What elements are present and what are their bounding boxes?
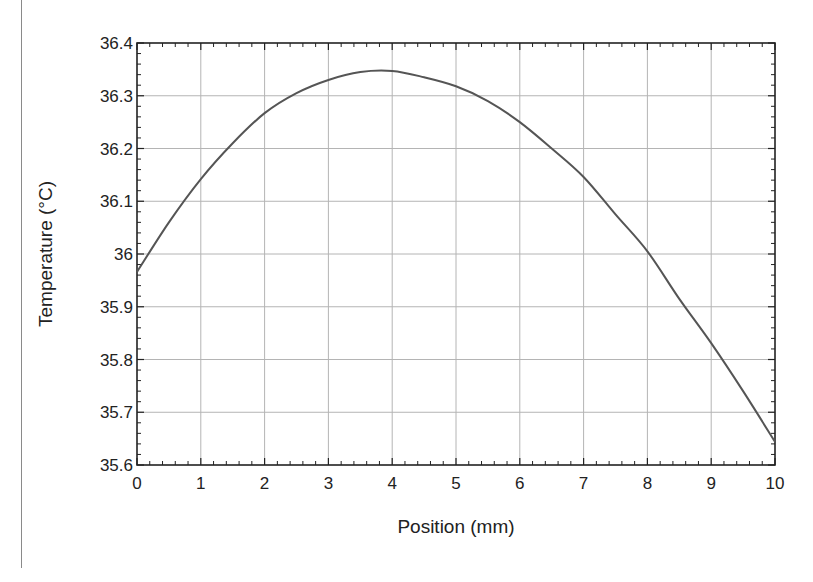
x-tick-label: 9 xyxy=(706,474,715,493)
y-tick-label: 35.6 xyxy=(100,456,133,475)
y-tick-label: 36 xyxy=(114,245,133,264)
y-tick-labels: 35.635.735.835.93636.136.236.336.4 xyxy=(100,34,133,475)
x-tick-label: 3 xyxy=(324,474,333,493)
y-axis-title: Temperature (°C) xyxy=(35,181,56,327)
x-tick-label: 7 xyxy=(579,474,588,493)
x-tick-label: 4 xyxy=(387,474,396,493)
x-tick-label: 6 xyxy=(515,474,524,493)
x-axis-title: Position (mm) xyxy=(397,516,514,537)
y-tick-label: 35.9 xyxy=(100,298,133,317)
x-tick-label: 5 xyxy=(451,474,460,493)
x-tick-label: 2 xyxy=(260,474,269,493)
y-tick-label: 36.4 xyxy=(100,34,133,53)
x-tick-label: 0 xyxy=(132,474,141,493)
y-tick-label: 35.7 xyxy=(100,403,133,422)
y-tick-label: 36.3 xyxy=(100,87,133,106)
x-tick-label: 8 xyxy=(643,474,652,493)
temperature-position-chart: 012345678910 35.635.735.835.93636.136.23… xyxy=(0,0,813,582)
x-tick-labels: 012345678910 xyxy=(132,474,784,493)
x-tick-label: 1 xyxy=(196,474,205,493)
x-tick-label: 10 xyxy=(766,474,785,493)
y-tick-label: 36.1 xyxy=(100,192,133,211)
grid-lines xyxy=(137,43,775,465)
y-tick-label: 35.8 xyxy=(100,351,133,370)
y-tick-label: 36.2 xyxy=(100,140,133,159)
